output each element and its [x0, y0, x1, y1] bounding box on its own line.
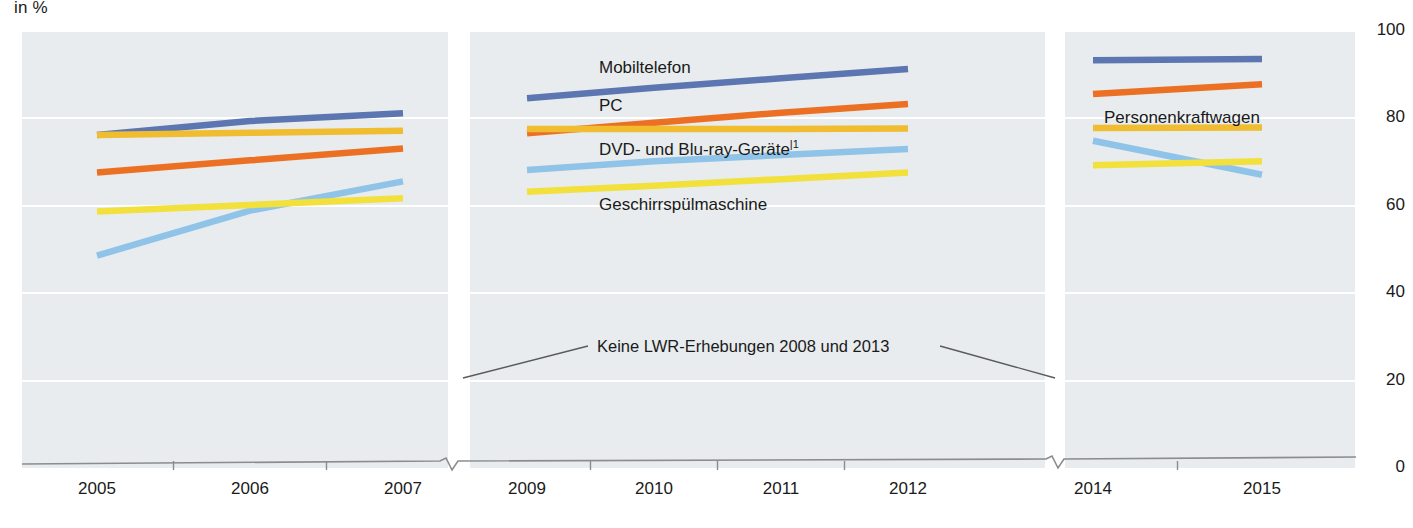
series-segment: [1093, 84, 1262, 94]
series-segment: [1093, 161, 1262, 165]
x-tick-label-2005: 2005: [78, 479, 116, 499]
x-tick-label-2007: 2007: [384, 479, 422, 499]
series-segment: [1093, 59, 1262, 60]
series-segment: [97, 131, 403, 135]
x-tick-label-2010: 2010: [635, 479, 673, 499]
x-tick-label-2012: 2012: [889, 479, 927, 499]
series-label-geschirrspuelmaschine: Geschirrspülmaschine: [599, 195, 767, 215]
series-personenkraftwagen: [97, 128, 1262, 135]
series-label-mobiltelefon: Mobiltelefon: [599, 58, 691, 78]
x-tick-label-2006: 2006: [231, 479, 269, 499]
x-tick-label-2011: 2011: [763, 479, 800, 499]
series-label-dvd: DVD- und Blu-ray-Geräte|1: [599, 138, 799, 160]
x-tick-label-2009: 2009: [508, 479, 546, 499]
x-axis: [0, 440, 1413, 480]
series-label-dvd-footnote: |1: [790, 138, 799, 150]
series-segment: [97, 149, 403, 173]
series-label-personenkraftwagen: Personenkraftwagen: [1104, 108, 1260, 128]
x-tick-label-2014: 2014: [1074, 479, 1112, 499]
series-segment: [1093, 141, 1262, 175]
series-label-pc: PC: [599, 96, 623, 116]
x-tick-label-2015: 2015: [1243, 479, 1281, 499]
series-segment: [527, 69, 908, 98]
annotation-no-survey: Keine LWR-Erhebungen 2008 und 2013: [597, 337, 889, 356]
x-axis-line: [22, 456, 1356, 470]
series-segment: [97, 181, 403, 255]
series-segment: [527, 173, 908, 192]
chart-root: in % 100806040200 2005200620072009201020…: [0, 0, 1413, 528]
series-label-dvd-text: DVD- und Blu-ray-Geräte: [599, 140, 790, 159]
